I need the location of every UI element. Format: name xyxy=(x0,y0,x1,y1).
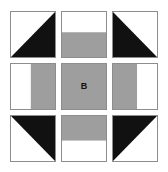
quilt-cell-middle-right xyxy=(112,63,158,110)
quilt-cell-bottom-left xyxy=(10,115,56,162)
horizontal-split-shape xyxy=(62,116,106,161)
quilt-cell-top-right xyxy=(112,11,158,58)
quilt-cell-middle-left xyxy=(10,63,56,110)
half-square-triangle-top-right-shape xyxy=(11,116,55,161)
quilt-grid: B xyxy=(10,11,158,162)
horizontal-split-shape xyxy=(62,12,106,57)
center-cell-label: B xyxy=(62,64,106,109)
vertical-split-shape xyxy=(11,64,55,109)
quilt-cell-bottom-right xyxy=(112,115,158,162)
half-square-triangle-bottom-left-shape xyxy=(113,12,157,57)
quilt-cell-bottom-center xyxy=(61,115,107,162)
half-square-triangle-bottom-right-shape xyxy=(11,12,55,57)
quilt-cell-top-center xyxy=(61,11,107,58)
quilt-cell-center: B xyxy=(61,63,107,110)
quilt-cell-top-left xyxy=(10,11,56,58)
half-square-triangle-top-left-shape xyxy=(113,116,157,161)
vertical-split-shape xyxy=(113,64,157,109)
quilt-block-diagram: B xyxy=(0,0,168,172)
